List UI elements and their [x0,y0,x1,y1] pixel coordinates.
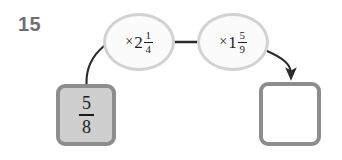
fraction-bar [79,114,94,116]
multiplication-sign-icon: × [219,35,227,49]
input-numerator: 5 [80,93,93,114]
op2-to-answer-arrow [265,50,291,74]
operation-bubble-1: × 2 1 4 [103,13,175,71]
multiplication-sign-icon: × [125,35,133,49]
answer-input-box[interactable] [259,82,321,146]
input-denominator: 8 [80,117,93,138]
operation-1-expression: × 2 1 4 [125,29,152,56]
worksheet-problem-canvas: 15 × 2 1 4 × 1 [0,0,342,160]
operation-bubble-2: × 1 5 9 [197,13,269,71]
operation-2-whole: 1 [228,34,237,51]
operation-2-fraction: 5 9 [238,29,247,56]
operation-2-denominator: 9 [238,43,246,55]
operation-1-denominator: 4 [144,43,152,55]
input-fraction: 5 8 [79,93,94,138]
operation-2-expression: × 1 5 9 [219,29,246,56]
input-value-box: 5 8 [56,84,116,146]
input-to-op1-curve [86,46,104,84]
operation-2-numerator: 5 [238,29,246,41]
operation-1-numerator: 1 [144,29,152,41]
operation-1-whole: 2 [134,34,143,51]
operation-1-fraction: 1 4 [144,29,153,56]
